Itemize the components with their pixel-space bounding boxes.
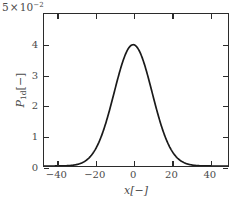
x-tick-mark [134, 161, 135, 166]
y-tick-label: 3 [32, 69, 38, 80]
plot-area [43, 13, 229, 167]
y-tick-mark [44, 76, 49, 77]
x-tick-label: −40 [46, 169, 67, 180]
y-axis-label-units: [−] [14, 73, 27, 91]
x-tick-mark [57, 161, 58, 166]
x-tick-label: −20 [84, 169, 105, 180]
x-tick-mark [211, 14, 212, 19]
x-tick-label: 20 [165, 169, 178, 180]
x-axis-label-text: x[−] [124, 184, 148, 197]
y-tick-label: 0 [32, 162, 38, 173]
y-tick-mark [223, 137, 228, 138]
x-tick-mark [134, 14, 135, 19]
figure-container: 5×10−2 −40−2002040 01234 x[−] P1d[−] [0, 0, 236, 198]
y-tick-mark [44, 45, 49, 46]
y-axis-offset-label: 5×10−2 [2, 1, 44, 13]
y-tick-mark [223, 45, 228, 46]
x-tick-mark [96, 161, 97, 166]
x-tick-label: 40 [203, 169, 216, 180]
x-tick-mark [211, 161, 212, 166]
y-tick-label: 1 [32, 131, 38, 142]
y-axis-label-subscript: 1d [19, 90, 28, 100]
offset-base: 10 [20, 1, 34, 13]
x-tick-mark [172, 161, 173, 166]
y-tick-mark [44, 106, 49, 107]
y-tick-label: 2 [32, 100, 38, 111]
x-tick-label: 0 [130, 169, 136, 180]
x-tick-mark [96, 14, 97, 19]
gaussian-curve-line [44, 45, 228, 166]
x-tick-mark [57, 14, 58, 19]
y-tick-mark [44, 137, 49, 138]
y-tick-label: 4 [32, 38, 38, 49]
y-axis-label: P1d[−] [14, 73, 27, 108]
x-tick-mark [172, 14, 173, 19]
offset-mantissa: 5 [2, 1, 9, 13]
x-axis-label: x[−] [124, 184, 148, 197]
offset-exponent: −2 [33, 1, 44, 9]
y-tick-mark [223, 106, 228, 107]
y-tick-mark [223, 168, 228, 169]
data-curve-svg [44, 14, 228, 166]
offset-times-symbol: × [9, 1, 20, 13]
y-tick-mark [223, 76, 228, 77]
y-axis-label-symbol: P [14, 100, 27, 107]
